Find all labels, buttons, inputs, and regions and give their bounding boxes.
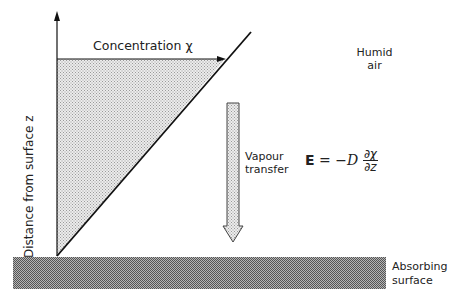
absorbing-surface-line-1: Absorbing bbox=[392, 260, 447, 274]
absorbing-surface-band bbox=[13, 257, 386, 289]
humid-air-line-2: air bbox=[352, 59, 397, 72]
equation-equals: = bbox=[319, 152, 331, 168]
equation-denominator: ∂z bbox=[363, 161, 378, 173]
equation-lhs: E bbox=[305, 152, 315, 168]
z-axis-label: Distance from surface z bbox=[22, 116, 36, 259]
absorbing-surface-line-2: surface bbox=[392, 274, 447, 288]
equation-fraction: ∂χ ∂z bbox=[363, 148, 378, 173]
equation-coefficient: −D bbox=[335, 152, 358, 168]
vapour-transfer-line-1: Vapour bbox=[245, 150, 288, 163]
vapour-transfer-arrow bbox=[223, 103, 243, 242]
humid-air-label: Humid air bbox=[352, 46, 397, 72]
vapour-transfer-label: Vapour transfer bbox=[245, 150, 288, 176]
vapour-transfer-line-2: transfer bbox=[245, 163, 288, 176]
humid-air-line-1: Humid bbox=[352, 46, 397, 59]
absorbing-surface-label: Absorbing surface bbox=[392, 260, 447, 288]
z-axis-arrowhead bbox=[54, 11, 60, 21]
flux-equation: E = −D ∂χ ∂z bbox=[305, 148, 378, 173]
concentration-label: Concentration χ bbox=[93, 39, 193, 52]
